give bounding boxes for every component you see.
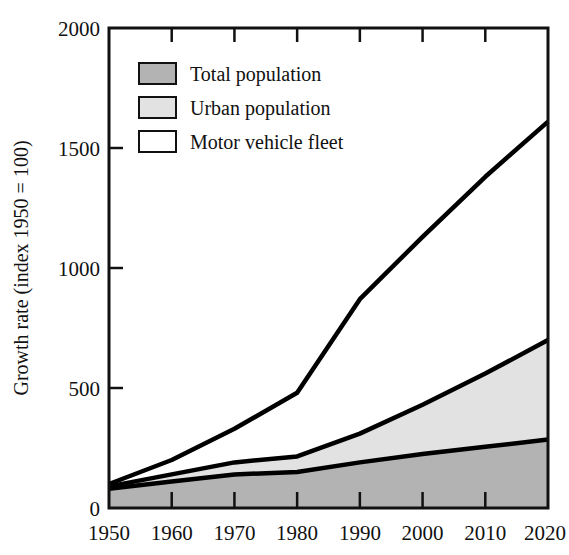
chart-container: 2000 1500 1000 500 0 1950 1960 1970 1980… (0, 0, 569, 555)
x-tick-label-2010: 2010 (464, 521, 506, 545)
y-tick-label-1000: 1000 (58, 257, 100, 281)
y-tick-label-2000: 2000 (58, 17, 100, 41)
legend-label-urban-population: Urban population (190, 97, 331, 120)
x-tick-label-1960: 1960 (151, 521, 193, 545)
legend-item-urban-population: Urban population (139, 97, 331, 120)
growth-rate-area-chart: 2000 1500 1000 500 0 1950 1960 1970 1980… (0, 0, 569, 555)
legend-label-motor-vehicle-fleet: Motor vehicle fleet (190, 131, 344, 153)
x-tick-label-2020: 2020 (524, 521, 566, 545)
legend-item-motor-vehicle-fleet: Motor vehicle fleet (139, 131, 344, 153)
y-axis-title: Growth rate (index 1950 = 100) (10, 140, 33, 395)
x-tick-label-1970: 1970 (213, 521, 255, 545)
x-tick-label-1980: 1980 (276, 521, 318, 545)
x-tick-label-1950: 1950 (88, 521, 130, 545)
chart-legend: Total population Urban population Motor … (139, 63, 344, 153)
legend-label-total-population: Total population (190, 63, 321, 86)
x-tick-label-1990: 1990 (339, 521, 381, 545)
legend-item-total-population: Total population (139, 63, 321, 86)
legend-swatch-total-population (139, 63, 176, 84)
legend-swatch-urban-population (139, 97, 176, 118)
legend-swatch-motor-vehicle-fleet (139, 131, 176, 152)
x-tick-label-2000: 2000 (402, 521, 444, 545)
y-tick-label-500: 500 (69, 377, 101, 401)
y-tick-label-1500: 1500 (58, 137, 100, 161)
y-tick-label-0: 0 (90, 497, 101, 521)
